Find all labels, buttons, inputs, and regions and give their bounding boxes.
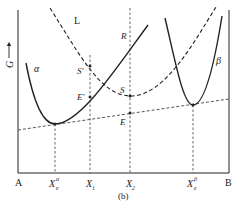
gibbs-free-energy-diagram: G L α β R S′ E′ S E A B X e α X 1 X 2 [0,0,239,202]
beta-label: β [215,55,221,66]
svg-text:2: 2 [132,185,135,191]
x-axis-left-label: A [15,177,23,188]
point-s-prime [89,65,92,68]
svg-text:e: e [194,185,197,191]
label-e: E [119,117,126,127]
y-axis-label: G [4,61,15,68]
point-xe-beta [192,104,195,107]
svg-text:X: X [186,178,194,189]
svg-text:α: α [56,176,60,182]
point-s [129,95,132,98]
point-xe-alpha [54,123,57,126]
svg-text:X: X [48,178,56,189]
point-e [129,112,132,115]
alpha-label: α [34,63,40,74]
svg-text:e: e [56,185,59,191]
beta-curve [165,16,222,105]
y-axis-label-group: G [4,42,15,68]
tick-xe-beta: X e β [186,176,197,191]
label-s: S [120,85,125,95]
point-e-prime [89,96,92,99]
tick-x1: X 1 [85,178,95,191]
x-axis-right-label: B [225,177,232,188]
svg-text:β: β [193,176,197,182]
tick-xe-alpha: X e α [48,176,60,191]
tick-x2: X 2 [125,178,135,191]
arrow-head-icon [7,42,11,46]
label-e-prime: E′ [76,92,85,102]
label-r: R [120,31,127,41]
liquid-label: L [74,15,80,26]
label-s-prime: S′ [77,66,85,76]
figure-caption: (b) [118,191,129,201]
svg-text:1: 1 [92,185,95,191]
